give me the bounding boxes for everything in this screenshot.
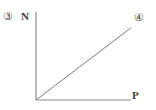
figure-panel: ③ N ④ P bbox=[0, 0, 156, 110]
data-series-line bbox=[36, 28, 131, 100]
plot-area bbox=[0, 0, 156, 110]
